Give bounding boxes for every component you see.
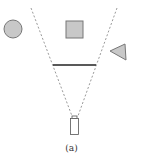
- circle-object: [4, 20, 22, 38]
- triangle-object: [110, 44, 126, 60]
- fov-right-line: [78, 8, 117, 116]
- camera-device: [71, 116, 79, 135]
- diagram-canvas: [0, 0, 143, 160]
- camera-body: [71, 119, 79, 135]
- square-object: [66, 21, 83, 38]
- figure-caption: (a): [0, 143, 143, 153]
